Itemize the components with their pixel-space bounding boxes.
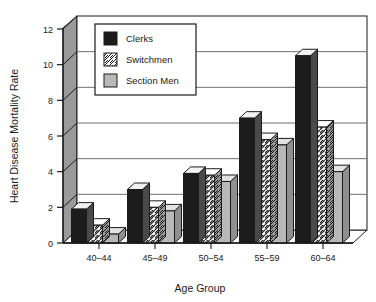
bar-front-face <box>128 190 143 244</box>
bar-side-face <box>231 175 238 243</box>
legend-entry-section-men[interactable]: Section Men <box>104 74 179 87</box>
x-tick-label: 40–44 <box>86 253 111 263</box>
y-tick-label: 10 <box>43 60 53 70</box>
bar-side-face <box>287 138 294 243</box>
x-tick-label: 50–54 <box>198 253 223 263</box>
legend-label-switchmen: Switchmen <box>126 54 172 65</box>
y-tick-label: 12 <box>43 25 53 35</box>
bar-front-face <box>184 173 199 243</box>
y-tick-label: 4 <box>48 167 53 177</box>
chart-legend: Clerks Switchmen Section Men <box>95 24 196 95</box>
bar-side-face <box>159 201 166 243</box>
bar-45–49-clerks <box>128 183 150 243</box>
bar-front-face <box>240 118 255 243</box>
bar-chart: 0 2 4 6 8 10 12 Heart Disease Mortality … <box>0 0 376 302</box>
x-axis-title: Age Group <box>175 282 226 294</box>
y-tick-label: 0 <box>48 239 53 249</box>
x-tick-label: 60–64 <box>310 253 335 263</box>
bar-front-face <box>72 209 87 243</box>
x-tick-label: 45–49 <box>142 253 167 263</box>
x-tick-label: 55–59 <box>254 253 279 263</box>
bar-side-face <box>215 169 222 243</box>
legend-swatch-section-men-icon <box>104 74 117 87</box>
bar-40–44-clerks <box>72 203 94 243</box>
bar-side-face <box>311 49 318 243</box>
y-tick-label: 8 <box>48 96 53 106</box>
legend-label-section-men: Section Men <box>126 75 179 86</box>
y-tick-label: 2 <box>48 203 53 213</box>
bar-side-face <box>343 165 350 243</box>
y-axis-title: Heart Disease Mortality Rate <box>8 69 20 203</box>
legend-swatch-clerks-icon <box>104 32 117 45</box>
bar-side-face <box>199 167 206 243</box>
bar-front-face <box>296 56 311 243</box>
bar-side-face <box>327 121 334 243</box>
legend-entry-switchmen[interactable]: Switchmen <box>104 53 172 66</box>
bar-side-face <box>143 183 150 243</box>
bar-60–64-clerks <box>296 49 318 243</box>
legend-entry-clerks[interactable]: Clerks <box>104 32 153 45</box>
bar-side-face <box>255 112 262 243</box>
legend-swatch-switchmen-icon <box>104 53 117 66</box>
bar-side-face <box>271 133 278 243</box>
y-tick-label: 6 <box>48 132 53 142</box>
bar-55–59-clerks <box>240 112 262 243</box>
bar-50–54-clerks <box>184 167 206 243</box>
legend-label-clerks: Clerks <box>126 33 153 44</box>
chart-container: 0 2 4 6 8 10 12 Heart Disease Mortality … <box>0 0 376 302</box>
